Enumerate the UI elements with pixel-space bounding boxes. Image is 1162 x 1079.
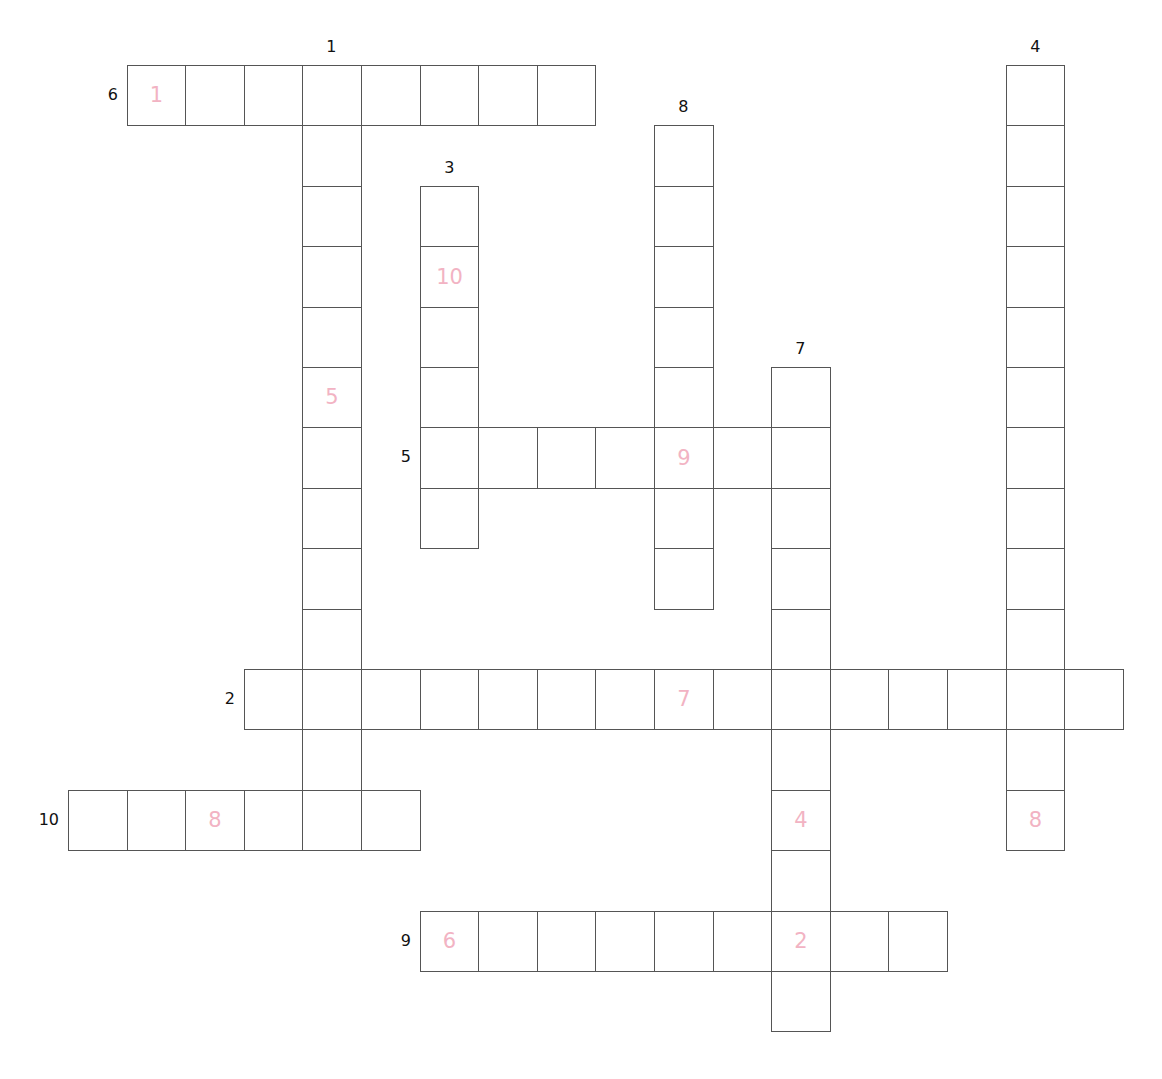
crossword-cell[interactable]: [478, 669, 538, 730]
crossword-cell[interactable]: [654, 911, 714, 972]
crossword-cell[interactable]: [420, 488, 479, 549]
crossword-cell[interactable]: [361, 65, 421, 126]
crossword-cell[interactable]: [302, 729, 362, 791]
crossword-cell[interactable]: [302, 488, 362, 549]
crossword-cell[interactable]: [947, 669, 1007, 730]
crossword-cell[interactable]: [537, 911, 596, 972]
crossword-cell[interactable]: [771, 427, 831, 489]
crossword-cell[interactable]: [888, 911, 948, 972]
crossword-cell[interactable]: [771, 729, 831, 791]
crossword-cell[interactable]: [771, 971, 831, 1032]
crossword-cell[interactable]: [888, 669, 948, 730]
crossword-cell[interactable]: [244, 669, 303, 730]
crossword-cell[interactable]: [302, 548, 362, 610]
crossword-cell[interactable]: 6: [420, 911, 479, 972]
letter-index-hint: 2: [794, 931, 807, 952]
crossword-cell[interactable]: [1006, 488, 1065, 549]
crossword-cell[interactable]: [302, 427, 362, 489]
crossword-cell[interactable]: [244, 65, 303, 126]
crossword-cell[interactable]: [361, 669, 421, 730]
letter-index-hint: 4: [794, 810, 807, 831]
crossword-cell[interactable]: [771, 669, 831, 730]
crossword-cell[interactable]: [537, 427, 596, 489]
crossword-cell[interactable]: [713, 911, 772, 972]
crossword-cell[interactable]: [420, 307, 479, 368]
crossword-cell[interactable]: [654, 367, 714, 428]
clue-number-8-down: 8: [678, 99, 688, 115]
crossword-cell[interactable]: [478, 65, 538, 126]
crossword-cell[interactable]: [654, 186, 714, 247]
clue-number-1-down: 1: [326, 39, 336, 55]
crossword-cell[interactable]: [1006, 65, 1065, 126]
crossword-cell[interactable]: 9: [654, 427, 714, 489]
crossword-cell[interactable]: [1006, 246, 1065, 308]
crossword-cell[interactable]: [1006, 548, 1065, 610]
crossword-cell[interactable]: [302, 669, 362, 730]
crossword-cell[interactable]: [771, 609, 831, 670]
clue-number-7-down: 7: [795, 341, 805, 357]
crossword-cell[interactable]: 5: [302, 367, 362, 428]
crossword-cell[interactable]: [1064, 669, 1124, 730]
crossword-cell[interactable]: [1006, 427, 1065, 489]
crossword-cell[interactable]: 10: [420, 246, 479, 308]
crossword-cell[interactable]: [302, 65, 362, 126]
letter-index-hint: 9: [677, 448, 690, 469]
crossword-cell[interactable]: [420, 186, 479, 247]
crossword-cell[interactable]: [302, 307, 362, 368]
crossword-cell[interactable]: [420, 65, 479, 126]
crossword-cell[interactable]: [771, 850, 831, 912]
crossword-cell[interactable]: [537, 65, 596, 126]
letter-index-hint: 5: [325, 387, 338, 408]
crossword-cell[interactable]: 8: [185, 790, 245, 851]
crossword-cell[interactable]: [420, 367, 479, 428]
crossword-cell[interactable]: [771, 488, 831, 549]
crossword-cell[interactable]: [127, 790, 186, 851]
crossword-cell[interactable]: [537, 669, 596, 730]
crossword-cell[interactable]: 2: [771, 911, 831, 972]
crossword-cell[interactable]: [595, 669, 655, 730]
crossword-cell[interactable]: [771, 548, 831, 610]
crossword-cell[interactable]: [654, 125, 714, 187]
crossword-cell[interactable]: [654, 307, 714, 368]
letter-index-hint: 1: [150, 85, 163, 106]
letter-index-hint: 7: [677, 689, 690, 710]
crossword-cell[interactable]: [1006, 729, 1065, 791]
crossword-cell[interactable]: [302, 125, 362, 187]
crossword-cell[interactable]: [185, 65, 245, 126]
crossword-cell[interactable]: 8: [1006, 790, 1065, 851]
crossword-cell[interactable]: [654, 548, 714, 610]
crossword-cell[interactable]: [1006, 609, 1065, 670]
crossword-cell[interactable]: [302, 790, 362, 851]
crossword-cell[interactable]: [713, 669, 772, 730]
letter-index-hint: 10: [436, 267, 463, 288]
crossword-cell[interactable]: [1006, 367, 1065, 428]
crossword-cell[interactable]: [302, 186, 362, 247]
crossword-cell[interactable]: [68, 790, 128, 851]
crossword-cell[interactable]: [595, 427, 655, 489]
crossword-cell[interactable]: [1006, 307, 1065, 368]
letter-index-hint: 6: [443, 931, 456, 952]
crossword-grid: 1510984278661384752109: [0, 0, 1162, 1079]
crossword-cell[interactable]: [420, 669, 479, 730]
crossword-cell[interactable]: [478, 911, 538, 972]
crossword-cell[interactable]: [713, 427, 772, 489]
clue-number-4-down: 4: [1030, 39, 1040, 55]
crossword-cell[interactable]: [1006, 125, 1065, 187]
crossword-cell[interactable]: [830, 911, 889, 972]
crossword-cell[interactable]: [771, 367, 831, 428]
crossword-cell[interactable]: [478, 427, 538, 489]
crossword-cell[interactable]: [1006, 186, 1065, 247]
crossword-cell[interactable]: [361, 790, 421, 851]
crossword-cell[interactable]: [1006, 669, 1065, 730]
crossword-cell[interactable]: 1: [127, 65, 186, 126]
crossword-cell[interactable]: 4: [771, 790, 831, 851]
crossword-cell[interactable]: [595, 911, 655, 972]
crossword-cell[interactable]: [302, 609, 362, 670]
crossword-cell[interactable]: [420, 427, 479, 489]
crossword-cell[interactable]: 7: [654, 669, 714, 730]
crossword-cell[interactable]: [654, 488, 714, 549]
crossword-cell[interactable]: [654, 246, 714, 308]
crossword-cell[interactable]: [830, 669, 889, 730]
crossword-cell[interactable]: [302, 246, 362, 308]
crossword-cell[interactable]: [244, 790, 303, 851]
